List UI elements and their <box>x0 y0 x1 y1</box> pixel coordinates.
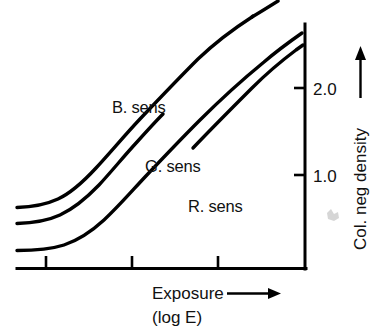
series-label-b-sens: B. sens <box>112 98 166 116</box>
y-axis-title: Col. neg density <box>351 128 370 250</box>
y-tick-label-1-0: 1.0 <box>313 167 337 186</box>
curve-b-sens-tail <box>252 1 278 17</box>
y-tick-label-2-0: 2.0 <box>313 80 337 99</box>
chart-canvas: 2.0 1.0 B. sens G. sens R. sens Exposure… <box>0 0 380 335</box>
x-axis-title: Exposure <box>152 284 224 303</box>
sensitometric-curve-chart: 2.0 1.0 B. sens G. sens R. sens Exposure… <box>0 0 380 335</box>
x-axis-arrow-icon <box>227 288 281 299</box>
scan-smudge <box>327 209 339 221</box>
curve-r-sens <box>17 33 302 251</box>
x-tick-marks <box>46 256 218 268</box>
x-axis-title-sub: (log E) <box>152 308 202 327</box>
curve-g-sens-lower <box>17 114 163 224</box>
series-label-g-sens: G. sens <box>145 157 200 175</box>
curve-g-sens-upper <box>193 45 303 148</box>
axes-group <box>17 24 306 269</box>
y-axis-arrow-icon <box>355 46 366 98</box>
series-label-r-sens: R. sens <box>188 197 243 215</box>
